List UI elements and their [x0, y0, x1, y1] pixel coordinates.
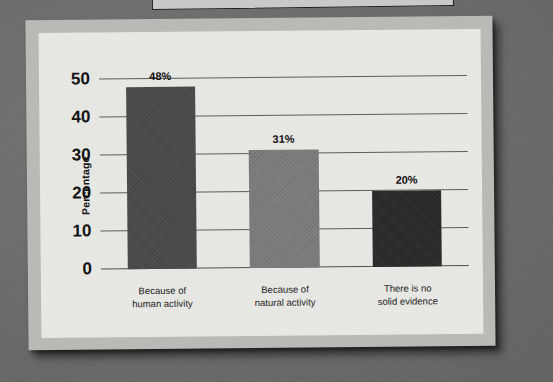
category-label-line2: human activity	[132, 297, 193, 311]
category-label: There is nosolid evidence	[377, 281, 437, 309]
y-tick-label-30: 30	[72, 145, 91, 165]
category-label-line1: Because of	[255, 282, 316, 296]
y-tick-label-20: 20	[72, 183, 91, 203]
category-label: Because ofnatural activity	[255, 282, 316, 310]
category-label: Because ofhuman activity	[132, 284, 193, 312]
bar[interactable]: 31%	[249, 150, 319, 268]
chart-frame: Percentage 0102030405048%Because ofhuman…	[25, 16, 495, 350]
y-tick-label-40: 40	[71, 107, 90, 127]
plot-area: 0102030405048%Because ofhuman activity31…	[99, 57, 469, 270]
bar-group: 20%There is nosolid evidence	[371, 57, 442, 267]
bar-group: 31%Because ofnatural activity	[248, 58, 319, 268]
y-tick-label-50: 50	[71, 69, 90, 89]
bar-value-label: 31%	[272, 133, 294, 145]
bar[interactable]: 48%	[126, 86, 197, 269]
category-label-line1: There is no	[377, 281, 437, 295]
bar-group: 48%Because ofhuman activity	[125, 60, 196, 270]
y-tick-label-10: 10	[72, 221, 91, 241]
chart-panel: Percentage 0102030405048%Because ofhuman…	[39, 29, 484, 338]
bar-value-label: 20%	[396, 173, 418, 185]
y-tick-label-0: 0	[82, 259, 92, 279]
category-label-line2: solid evidence	[378, 295, 438, 309]
category-label-line2: natural activity	[255, 296, 316, 310]
bar[interactable]: 20%	[372, 190, 442, 267]
category-label-line1: Because of	[132, 284, 193, 298]
bar-value-label: 48%	[149, 69, 171, 81]
